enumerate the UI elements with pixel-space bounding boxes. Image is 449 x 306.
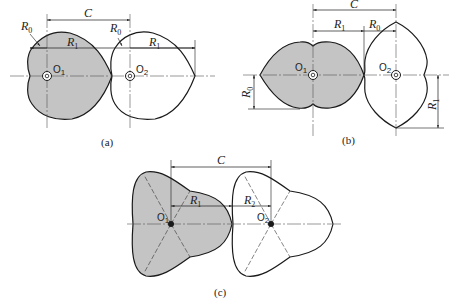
rotor-profile-diagram: C R0 R1 R0 R1 O1 O2 (a) xyxy=(0,0,449,306)
caption-a: (a) xyxy=(101,136,114,149)
label-r0-right: R0 xyxy=(109,21,121,37)
caption-b: (b) xyxy=(342,134,355,147)
label-r1-top-b: R1 xyxy=(333,17,345,33)
label-r0-left: R0 xyxy=(20,19,32,35)
figure-a: C R0 R1 R0 R1 O1 O2 (a) xyxy=(10,6,215,149)
label-c-b: C xyxy=(350,0,359,11)
figure-c: C R1 R2 O1 O2 (c) xyxy=(127,153,342,299)
center-o1-b xyxy=(309,71,318,80)
label-c-c: C xyxy=(217,153,226,167)
label-r1-side-b: R1 xyxy=(425,99,441,111)
label-c: C xyxy=(84,6,93,20)
center-o1-a xyxy=(43,72,52,81)
caption-c: (c) xyxy=(214,286,227,299)
center-o2-b xyxy=(392,71,401,80)
label-r0-top-b: R0 xyxy=(368,17,380,33)
figure-b: C R1 R0 R0 R1 O1 O2 (b) xyxy=(239,0,449,147)
center-o2-a xyxy=(126,72,135,81)
label-r0-side-b: R0 xyxy=(239,87,255,99)
